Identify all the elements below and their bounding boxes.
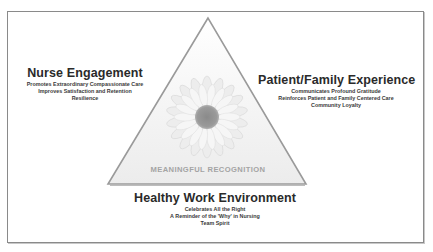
nurse-engagement-item: Promotes Extraordinary Compassionate Car… bbox=[14, 81, 156, 88]
nurse-engagement-item: Improves Satisfaction and Retention bbox=[14, 88, 156, 95]
patient-family-experience-item: Communicates Profound Gratitude bbox=[258, 88, 414, 95]
healthy-work-environment-item: Team Spirit bbox=[125, 220, 305, 227]
patient-family-experience-section: Patient/Family Experience Communicates P… bbox=[258, 73, 414, 109]
meaningful-recognition-label: MEANINGFUL RECOGNITION bbox=[130, 165, 286, 174]
nurse-engagement-section: Nurse Engagement Promotes Extraordinary … bbox=[14, 66, 156, 102]
healthy-work-environment-item: Celebrates All the Right bbox=[125, 206, 305, 213]
nurse-engagement-item: Resilience bbox=[14, 95, 156, 102]
nurse-engagement-title: Nurse Engagement bbox=[14, 66, 156, 81]
healthy-work-environment-section: Healthy Work Environment Celebrates All … bbox=[125, 190, 305, 227]
healthy-work-environment-title: Healthy Work Environment bbox=[125, 190, 305, 206]
patient-family-experience-title: Patient/Family Experience bbox=[258, 73, 414, 88]
patient-family-experience-item: Community Loyalty bbox=[258, 102, 414, 109]
healthy-work-environment-item: A Reminder of the 'Why' in Nursing bbox=[125, 213, 305, 220]
patient-family-experience-item: Reinforces Patient and Family Centered C… bbox=[258, 95, 414, 102]
